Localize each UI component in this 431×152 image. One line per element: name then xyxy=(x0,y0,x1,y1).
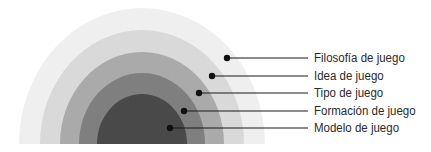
dot-tipo xyxy=(196,90,202,96)
dot-modelo xyxy=(167,125,173,131)
dot-formacion xyxy=(181,108,187,114)
label-filosofia: Filosofía de juego xyxy=(314,51,405,65)
label-tipo: Tipo de juego xyxy=(314,86,383,100)
dot-idea xyxy=(209,73,215,79)
label-modelo: Modelo de juego xyxy=(314,121,399,135)
label-formacion: Formación de juego xyxy=(314,104,416,118)
dot-filosofia xyxy=(224,55,230,61)
label-idea: Idea de juego xyxy=(314,69,384,83)
